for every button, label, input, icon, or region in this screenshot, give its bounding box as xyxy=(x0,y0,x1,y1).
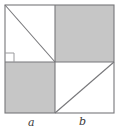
quadrant-bottom-left-shaded xyxy=(5,62,55,113)
quadrant-top-right-shaded xyxy=(55,5,114,62)
segment-label-a: a xyxy=(28,117,35,128)
figure-container: a b xyxy=(0,0,121,132)
geometric-diagram xyxy=(0,0,121,132)
segment-label-b: b xyxy=(79,116,86,127)
